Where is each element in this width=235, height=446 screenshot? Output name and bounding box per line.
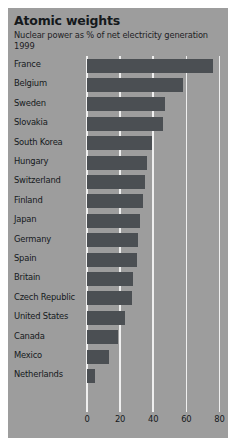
bar-spain <box>87 253 137 267</box>
x-axis: 020406080 <box>8 412 228 438</box>
bar-united-states <box>87 311 125 325</box>
chart-row: Belgium <box>8 75 228 94</box>
chart-row: Czech Republic <box>8 289 228 308</box>
bar-mexico <box>87 350 109 364</box>
chart-row: Mexico <box>8 347 228 366</box>
bar-hungary <box>87 156 147 170</box>
chart-row: Switzerland <box>8 172 228 191</box>
chart-row: Netherlands <box>8 366 228 385</box>
chart-row: Finland <box>8 192 228 211</box>
chart-year-label: 1999 <box>14 41 228 51</box>
category-label: Slovakia <box>14 116 48 128</box>
category-label: France <box>14 58 41 70</box>
category-label: Mexico <box>14 349 42 361</box>
chart-row: Hungary <box>8 153 228 172</box>
chart-row: Sweden <box>8 95 228 114</box>
category-label: Hungary <box>14 155 48 167</box>
page-title: Atomic weights <box>14 13 228 28</box>
x-tick-label: 0 <box>84 414 89 425</box>
category-label: United States <box>14 310 68 322</box>
bar-sweden <box>87 97 165 111</box>
category-label: Britain <box>14 271 40 283</box>
category-label: Belgium <box>14 77 47 89</box>
bar-czech-republic <box>87 291 132 305</box>
chart-row: Canada <box>8 328 228 347</box>
category-label: South Korea <box>14 136 63 148</box>
chart-row: Japan <box>8 211 228 230</box>
x-tick-label: 60 <box>181 414 191 425</box>
bar-britain <box>87 272 133 286</box>
bar-france <box>87 59 213 73</box>
x-tick-label: 20 <box>115 414 125 425</box>
chart-row: United States <box>8 308 228 327</box>
category-label: Switzerland <box>14 174 61 186</box>
x-tick-label: 80 <box>214 414 224 425</box>
chart-row: Germany <box>8 231 228 250</box>
bar-slovakia <box>87 117 163 131</box>
chart-header: Atomic weights Nuclear power as % of net… <box>8 8 228 51</box>
category-label: Finland <box>14 194 43 206</box>
bar-germany <box>87 233 138 247</box>
bar-netherlands <box>87 369 95 383</box>
bar-canada <box>87 330 118 344</box>
chart-subtitle: Nuclear power as % of net electricity ge… <box>14 30 228 41</box>
x-tick-label: 40 <box>148 414 158 425</box>
bar-japan <box>87 214 140 228</box>
category-label: Germany <box>14 233 51 245</box>
chart-plot-area: FranceBelgiumSwedenSlovakiaSouth KoreaHu… <box>8 56 228 404</box>
bar-south-korea <box>87 136 152 150</box>
category-label: Japan <box>14 213 36 225</box>
category-label: Sweden <box>14 97 46 109</box>
chart-row: South Korea <box>8 134 228 153</box>
chart-row: Britain <box>8 269 228 288</box>
chart-figure: Atomic weights Nuclear power as % of net… <box>8 8 228 438</box>
category-label: Czech Republic <box>14 291 75 303</box>
bar-switzerland <box>87 175 145 189</box>
chart-row: Spain <box>8 250 228 269</box>
category-label: Netherlands <box>14 368 63 380</box>
category-label: Canada <box>14 330 45 342</box>
bar-finland <box>87 194 143 208</box>
category-label: Spain <box>14 252 36 264</box>
bar-belgium <box>87 78 183 92</box>
chart-row: Slovakia <box>8 114 228 133</box>
chart-row: France <box>8 56 228 75</box>
